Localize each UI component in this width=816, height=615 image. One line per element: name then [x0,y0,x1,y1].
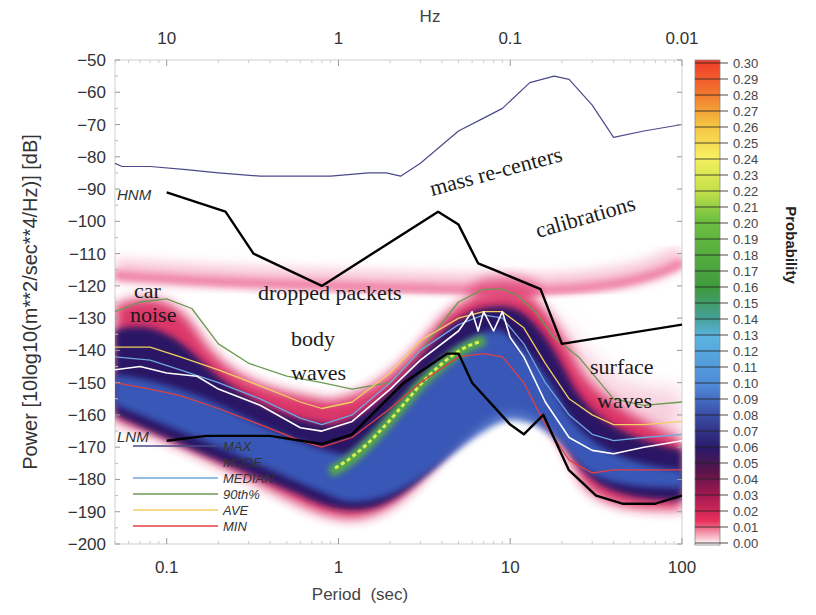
colorbar-tick-label: 0.07 [733,424,758,439]
legend-label-max: MAX [223,439,253,454]
colorbar-tick-label: 0.30 [733,56,758,71]
y-tick-label: −130 [68,309,106,328]
y-tick-label: −200 [68,535,106,554]
annotation-car: car [134,278,162,303]
colorbar-tick-label: 0.25 [733,136,758,151]
y-tick-label: −80 [77,148,106,167]
y-tick-label: −70 [77,116,106,135]
colorbar-tick-label: 0.06 [733,440,758,455]
colorbar-tick-label: 0.24 [733,152,758,167]
x-top-tick-label: 10 [157,29,176,48]
colorbar-title: Probability [783,206,800,284]
colorbar-tick-label: 0.03 [733,488,758,503]
colorbar-tick-label: 0.11 [733,360,757,375]
legend-label-median: MEDIAN [223,471,274,486]
legend-label-min: MIN [223,519,247,534]
legend-label-mode: MODE [223,455,262,470]
x-tick-label: 0.1 [155,558,179,577]
y-tick-label: −160 [68,406,106,425]
legend-label-90thpct: 90th% [223,487,260,502]
colorbar-tick-label: 0.18 [733,248,758,263]
x-tick-label: 10 [501,558,520,577]
colorbar-tick-label: 0.17 [733,264,758,279]
x-tick-label: 100 [668,558,696,577]
y-tick-label: −50 [77,51,106,70]
colorbar-tick-label: 0.26 [733,120,758,135]
colorbar-tick-label: 0.28 [733,88,758,103]
colorbar-tick-label: 0.19 [733,232,758,247]
colorbar-tick-label: 0.20 [733,216,758,231]
colorbar-tick-label: 0.15 [733,296,758,311]
y-tick-label: −140 [68,341,106,360]
colorbar-tick-label: 0.12 [733,344,758,359]
colorbar-tick-label: 0.10 [733,376,758,391]
annotation-dropped-packets: dropped packets [258,280,402,305]
y-tick-label: −170 [68,438,106,457]
colorbar-tick-label: 0.14 [733,312,758,327]
colorbar-tick-label: 0.00 [733,536,758,551]
annotation-body-waves: waves [291,360,346,385]
x-axis-title: Period (sec) [312,585,408,604]
colorbar-tick-label: 0.02 [733,504,758,519]
x-tick-label: 1 [334,558,343,577]
colorbar-tick-label: 0.08 [733,408,758,423]
colorbar-tick-label: 0.16 [733,280,758,295]
legend-label-ave: AVE [222,503,249,518]
colorbar-tick-label: 0.04 [733,472,758,487]
colorbar-gradient [695,60,720,545]
y-tick-label: −190 [68,503,106,522]
annotation-body: body [291,326,335,351]
annotation-surface: surface [590,354,654,379]
colorbar: 0.300.290.280.270.260.250.240.230.220.21… [695,56,800,551]
y-tick-label: −150 [68,374,106,393]
colorbar-tick-label: 0.27 [733,104,758,119]
y-tick-label: −60 [77,83,106,102]
colorbar-tick-label: 0.29 [733,72,758,87]
y-axis-title: Power [10log10(m**2/sec**4/Hz)] [dB] [19,134,41,470]
y-tick-label: −110 [69,245,106,264]
psd-pdf-chart: −50−60−70−80−90−100−110−120−130−140−150−… [0,0,816,615]
y-tick-label: −90 [77,180,106,199]
colorbar-tick-label: 0.21 [733,200,758,215]
colorbar-tick-label: 0.01 [733,520,758,535]
x-axis-top-title: Hz [420,7,441,26]
colorbar-tick-label: 0.22 [733,184,758,199]
colorbar-tick-label: 0.05 [733,456,758,471]
x-top-tick-label: 0.1 [498,29,522,48]
y-tick-label: −120 [68,277,106,296]
colorbar-tick-label: 0.13 [733,328,758,343]
colorbar-tick-label: 0.09 [733,392,758,407]
hnm-label: HNM [117,186,152,203]
y-tick-label: −180 [68,470,106,489]
lnm-label: LNM [117,428,149,445]
x-top-tick-label: 1 [334,29,343,48]
annotation-noise: noise [130,302,176,327]
annotation-surface-waves: waves [597,388,652,413]
y-tick-label: −100 [68,212,106,231]
x-top-tick-label: 0.01 [665,29,698,48]
colorbar-tick-label: 0.23 [733,168,758,183]
